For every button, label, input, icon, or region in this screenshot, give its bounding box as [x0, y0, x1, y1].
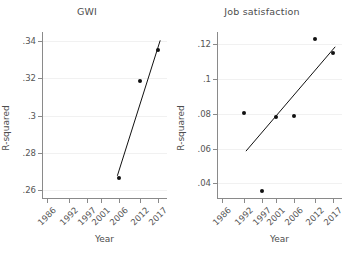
y-tick-label: .1: [203, 74, 211, 84]
data-point: [274, 115, 278, 119]
data-point: [117, 176, 121, 180]
fit-line: [217, 32, 342, 199]
data-point: [156, 48, 160, 52]
data-point: [242, 111, 246, 115]
x-tick-label: 2012: [129, 205, 151, 227]
y-tick-label: .34: [22, 36, 36, 46]
y-tick-label: .26: [22, 185, 36, 195]
y-tick-label: .28: [22, 148, 36, 158]
data-point: [313, 37, 317, 41]
x-tick-label: 2006: [282, 205, 304, 227]
x-tick: [294, 199, 295, 203]
y-tick-label: .04: [197, 178, 211, 188]
x-axis-title: Year: [42, 234, 167, 244]
x-tick-label: 1986: [211, 205, 233, 227]
plot-area: .26.28.3.32.3419861992199720012006201220…: [42, 32, 167, 199]
x-tick: [333, 199, 334, 203]
y-tick-label: .06: [197, 144, 211, 154]
y-tick-label: .3: [28, 111, 36, 121]
data-point: [138, 79, 142, 83]
x-tick-label: 1992: [232, 205, 254, 227]
data-point: [260, 189, 264, 193]
panel-gwi: GWI R-squared .26.28.3.32.34198619921997…: [0, 0, 174, 256]
x-tick-label: 1986: [36, 205, 58, 227]
y-tick-label: .32: [22, 73, 36, 83]
x-tick-label: 2006: [107, 205, 129, 227]
x-tick: [222, 199, 223, 203]
x-tick: [315, 199, 316, 203]
x-axis-title: Year: [217, 234, 342, 244]
x-tick: [276, 199, 277, 203]
x-tick: [140, 199, 141, 203]
data-point: [331, 51, 335, 55]
x-tick-label: 2012: [304, 205, 326, 227]
x-tick-label: 1992: [57, 205, 79, 227]
figure-two-panel-scatter: GWI R-squared .26.28.3.32.34198619921997…: [0, 0, 349, 256]
x-tick: [244, 199, 245, 203]
panel-job-satisfaction: Job satisfaction R-squared .04.06.08.1.1…: [175, 0, 349, 256]
x-tick: [101, 199, 102, 203]
x-tick: [47, 199, 48, 203]
y-axis-title: R-squared: [1, 105, 11, 151]
y-axis-title: R-squared: [176, 105, 186, 151]
x-tick: [262, 199, 263, 203]
plot-area: .04.06.08.1.1219861992199720012006201220…: [217, 32, 342, 199]
panel-title: Job satisfaction: [175, 6, 349, 17]
x-tick: [69, 199, 70, 203]
y-tick-label: .12: [197, 39, 211, 49]
data-point: [292, 114, 296, 118]
fit-line: [42, 32, 167, 199]
x-tick: [87, 199, 88, 203]
panel-title: GWI: [0, 6, 174, 17]
x-tick: [158, 199, 159, 203]
x-tick: [119, 199, 120, 203]
x-tick-label: 2017: [322, 205, 344, 227]
y-tick-label: .08: [197, 109, 211, 119]
x-tick-label: 2017: [147, 205, 169, 227]
